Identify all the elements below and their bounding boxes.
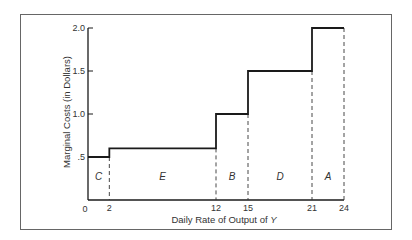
y-tick-label: 2.0	[72, 23, 85, 33]
region-label-e: E	[159, 171, 166, 182]
region-label-c: C	[95, 171, 103, 182]
chart-frame	[21, 15, 392, 230]
x-axis-title: Daily Rate of Output of Y	[171, 214, 277, 225]
plot-area: .51.01.52.00212152124CEBDA	[72, 23, 349, 214]
marginal-cost-chart: .51.01.52.00212152124CEBDA Marginal Cost…	[0, 0, 412, 240]
x-tick-label: 24	[339, 203, 349, 213]
x-axis-title-variable: Y	[270, 214, 277, 225]
y-axis-title: Marginal Costs (in Dollars)	[61, 56, 72, 168]
region-label-d: D	[276, 171, 283, 182]
origin-label: 0	[82, 204, 87, 214]
region-label-a: A	[324, 171, 332, 182]
x-tick-label: 2	[107, 203, 112, 213]
region-label-b: B	[229, 171, 236, 182]
x-tick-label: 21	[307, 203, 317, 213]
y-tick-label: .5	[77, 152, 85, 162]
x-axis-title-text: Daily Rate of Output of	[171, 214, 270, 225]
x-tick-label: 12	[211, 203, 221, 213]
y-tick-label: 1.0	[72, 109, 85, 119]
x-tick-label: 15	[243, 203, 253, 213]
y-tick-label: 1.5	[72, 66, 85, 76]
marginal-cost-step-line	[88, 28, 344, 157]
